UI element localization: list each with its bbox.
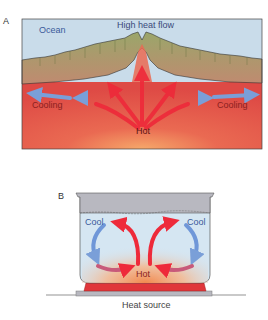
pot-rim bbox=[76, 193, 214, 213]
cooling-right-label: Cooling bbox=[217, 101, 248, 110]
cool-left-label: Cool bbox=[85, 218, 104, 227]
burner-base bbox=[76, 291, 212, 296]
panel-b-letter: B bbox=[58, 191, 64, 201]
panel-b bbox=[46, 193, 246, 296]
high-heat-flow-label: High heat flow bbox=[117, 21, 174, 30]
ocean-label: Ocean bbox=[39, 26, 66, 35]
cooling-left-label: Cooling bbox=[32, 101, 63, 110]
panel-a-letter: A bbox=[3, 16, 9, 26]
cool-right-label: Cool bbox=[187, 218, 206, 227]
hot-label-b: Hot bbox=[136, 270, 150, 279]
heat-source-label: Heat source bbox=[122, 301, 171, 310]
hot-label-a: Hot bbox=[136, 127, 150, 136]
diagram-canvas bbox=[0, 0, 268, 320]
